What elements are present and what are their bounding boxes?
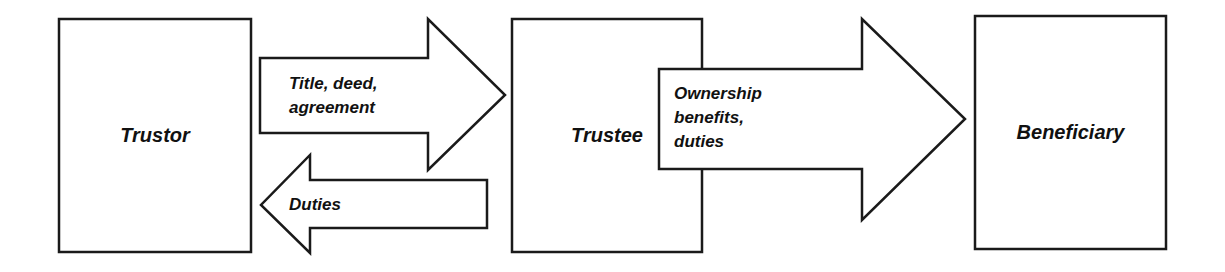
edge-label-ownership: Ownership benefits, duties <box>674 82 762 154</box>
node-label-beneficiary: Beneficiary <box>975 121 1166 144</box>
node-label-trustor: Trustor <box>59 124 251 147</box>
edge-label-duties: Duties <box>289 193 341 217</box>
edge-label-title-deed: Title, deed, agreement <box>289 72 378 120</box>
